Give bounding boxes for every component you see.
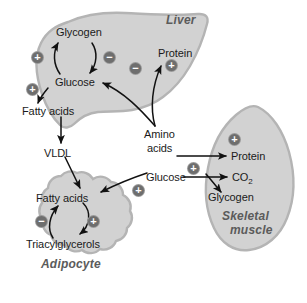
label-co2-muscle: CO2 xyxy=(232,171,253,188)
label-protein-muscle: Protein xyxy=(231,150,265,162)
organ-label-adipocyte: Adipocyte xyxy=(41,258,101,271)
organ-label-skeletal-line1: Skeletal xyxy=(222,210,269,223)
metabolism-diagram: Glycogen Glucose Fatty acids Protein Liv… xyxy=(0,0,307,303)
label-glycogen-muscle: Glycogen xyxy=(208,191,254,203)
label-vldl: VLDL xyxy=(44,147,71,159)
label-amino-acids-line2: acids xyxy=(147,142,172,154)
badge-fa-uptake-adipocyte: + xyxy=(133,185,144,196)
label-co2-text: CO xyxy=(232,171,248,183)
label-protein-liver: Protein xyxy=(158,47,192,59)
badge-lipogenesis-liver: + xyxy=(27,84,38,95)
organ-label-liver: Liver xyxy=(166,14,196,27)
badge-glucose-uptake-muscle: + xyxy=(188,163,199,174)
badge-esterification: + xyxy=(88,216,99,227)
badge-protein-synthesis-liver: + xyxy=(166,60,177,71)
label-fatty-acids-liver: Fatty acids xyxy=(22,105,74,117)
badge-protein-synthesis-muscle: + xyxy=(229,134,240,145)
label-triacylglycerols: Triacylglycerols xyxy=(26,238,100,250)
badge-glycogenolysis: − xyxy=(104,52,115,63)
label-glucose-liver: Glucose xyxy=(55,76,95,88)
label-co2-subscript: 2 xyxy=(248,177,252,186)
organ-label-skeletal-line2: muscle xyxy=(230,224,273,237)
label-glucose-blood: Glucose xyxy=(146,171,186,183)
label-glycogen-liver: Glycogen xyxy=(56,26,102,38)
label-fatty-acids-adipocyte: Fatty acids xyxy=(36,192,88,204)
badge-lipolysis: − xyxy=(36,216,47,227)
badge-glycogen-synthesis: + xyxy=(32,52,43,63)
label-amino-acids-line1: Amino xyxy=(144,128,175,140)
badge-gluconeogenesis: − xyxy=(130,63,141,74)
